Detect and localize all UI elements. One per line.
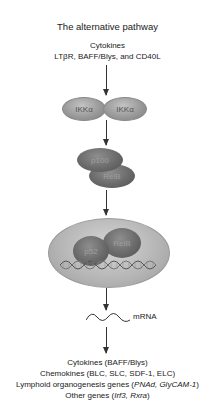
ikk-alpha-left: IKKα — [62, 97, 106, 121]
other-prefix: Other genes ( — [65, 391, 114, 400]
arrow-to-ikk — [106, 65, 107, 95]
input-label-cytokines: Cytokines — [0, 41, 215, 52]
input-label-receptors: LTβR, BAFF/Blys, and CD40L — [0, 52, 215, 63]
lymphoid-prefix: Lymphoid organogenesis genes ( — [16, 380, 134, 389]
target-chemokines: Chemokines (BLC, SLC, SDF-1, ELC) — [0, 369, 215, 380]
p100-protein: p100 — [77, 148, 123, 172]
other-suffix: ) — [147, 391, 150, 400]
diagram-title: The alternative pathway — [0, 21, 215, 32]
target-cytokines: Cytokines (BAFF/Blys) — [0, 358, 215, 369]
arrow-to-mrna — [106, 288, 107, 310]
ikk-alpha-right-label: IKKα — [116, 105, 134, 114]
dna-helix-icon — [60, 257, 156, 273]
other-genes: Irf3, Rxra — [114, 391, 147, 400]
target-other-genes: Other genes (Irf3, Rxra) — [0, 391, 215, 402]
lymphoid-suffix: ) — [196, 380, 199, 389]
arrow-to-nucleus — [106, 190, 107, 215]
relb-cytoplasm-label: RelB — [103, 172, 120, 181]
ikk-alpha-left-label: IKKα — [75, 105, 93, 114]
mrna-label: mRNA — [133, 312, 157, 323]
ikk-alpha-right: IKKα — [103, 97, 147, 121]
arrow-to-targets — [106, 327, 107, 353]
arrow-to-p100 — [106, 120, 107, 145]
p52-label: p52 — [84, 247, 97, 256]
lymphoid-genes: PNAd, GlyCAM-1 — [134, 380, 196, 389]
target-lymphoid-genes: Lymphoid organogenesis genes (PNAd, GlyC… — [0, 380, 215, 391]
p100-label: p100 — [91, 156, 109, 165]
mrna-wave-icon — [86, 310, 130, 324]
relb-nucleus-label: RelB — [113, 239, 130, 248]
